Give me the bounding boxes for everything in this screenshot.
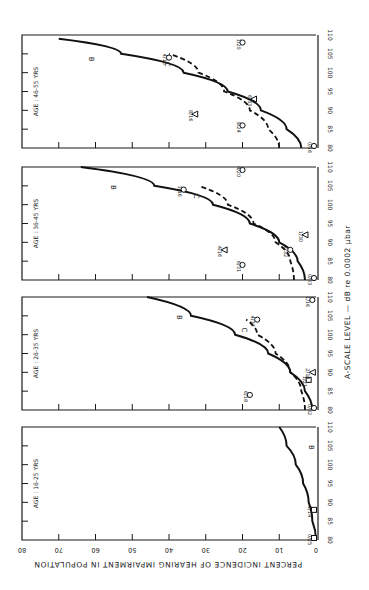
curve-label-B: B — [307, 445, 315, 450]
curve-C — [246, 320, 305, 410]
db-tick-label: 105 — [327, 440, 334, 452]
curve-label-B: B — [175, 315, 183, 320]
percent-tick-label: 10 — [275, 546, 283, 554]
db-tick-label: 100 — [327, 329, 334, 341]
chart-panel-4: 80859095100105110AGE : 16-25 YRSB0/251/1… — [22, 421, 334, 545]
curve-B — [147, 297, 312, 410]
db-tick-label: 110 — [327, 291, 334, 303]
point-label: 1/14 — [307, 506, 313, 517]
x-axis-title: A-SCALE LEVEL — dB re 0.0002 µbar — [343, 225, 352, 379]
curve-label-B: B — [87, 57, 95, 62]
chart-panel-1: 80859095100105110AGE : 46-55 YRSBC0/169/… — [22, 29, 334, 153]
curve-B — [81, 167, 305, 280]
db-tick-label: 95 — [327, 480, 334, 488]
percent-tick-label: 30 — [202, 546, 210, 554]
db-tick-label: 80 — [327, 276, 334, 284]
curve-B — [59, 39, 302, 148]
panel-frame — [22, 427, 316, 540]
point-label: 4/16 — [162, 54, 168, 65]
db-tick-label: 100 — [327, 67, 334, 79]
chart-panel-3: 80859095100105110AGE : 26-35 YRSBC0/326/… — [22, 291, 334, 415]
db-tick-label: 85 — [327, 387, 334, 395]
y-axis-title: PERCENT INCIDENCE OF HEARING IMPAIRMENT … — [34, 560, 302, 569]
db-tick-label: 105 — [327, 180, 334, 192]
percent-tick-label: 80 — [18, 546, 26, 554]
point-label: 1/30 — [298, 231, 304, 242]
db-tick-label: 90 — [327, 239, 334, 247]
db-tick-label: 85 — [327, 517, 334, 525]
curve-C — [169, 54, 279, 148]
db-tick-label: 110 — [327, 421, 334, 433]
point-label: 0/25 — [307, 534, 313, 545]
point-label: 4/16 — [217, 246, 223, 257]
db-tick-label: 85 — [327, 257, 334, 265]
panel-frame — [22, 167, 316, 280]
point-label: 6/31 — [236, 261, 242, 272]
db-tick-label: 85 — [327, 125, 334, 133]
db-tick-label: 90 — [327, 499, 334, 507]
db-tick-label: 90 — [327, 107, 334, 115]
percent-tick-label: 20 — [238, 546, 246, 554]
db-tick-label: 110 — [327, 29, 334, 41]
age-label: AGE : 46-55 YRS — [32, 67, 39, 116]
panel-frame — [22, 297, 316, 410]
point-label: 1/16 — [305, 296, 311, 307]
point-label: 3/16 — [177, 186, 183, 197]
point-label: 2/18 — [305, 368, 311, 379]
age-label: AGE : 36-45 YRS — [32, 199, 39, 248]
point-label: 2/32 — [283, 246, 289, 257]
point-label: 4/20 — [236, 166, 242, 177]
panel-frame — [22, 35, 316, 148]
point-label: 4/32 — [250, 316, 256, 327]
curve-label-C: C — [192, 194, 200, 199]
point-label: 9/24 — [236, 121, 242, 132]
chart-panel-2: 80859095100105110AGE : 36-45 YRSBC0/336/… — [22, 161, 334, 285]
db-tick-label: 90 — [327, 369, 334, 377]
db-tick-label: 80 — [327, 144, 334, 152]
curve-label-B: B — [109, 185, 117, 190]
db-tick-label: 100 — [327, 459, 334, 471]
point-label: 1/20 — [236, 39, 242, 50]
age-label: AGE : 16-25 YRS — [32, 459, 39, 508]
percent-tick-label: 0 — [314, 546, 318, 554]
db-tick-label: 80 — [327, 536, 334, 544]
percent-tick-label: 50 — [128, 546, 136, 554]
hearing-impairment-figure: 80859095100105110AGE : 46-55 YRSBC0/169/… — [0, 0, 369, 590]
curve-B — [279, 427, 316, 540]
db-tick-label: 105 — [327, 48, 334, 60]
db-tick-label: 95 — [327, 220, 334, 228]
percent-tick-label: 40 — [165, 546, 173, 554]
db-tick-label: 95 — [327, 350, 334, 358]
point-label: 0/16 — [307, 142, 313, 153]
point-label: 8/16 — [188, 110, 194, 121]
percent-tick-label: 60 — [91, 546, 99, 554]
curve-label-C: C — [240, 328, 248, 333]
age-label: AGE : 26-35 YRS — [32, 329, 39, 378]
point-label: 6/18 — [243, 391, 249, 402]
db-tick-label: 105 — [327, 310, 334, 322]
point-label: 0/32 — [307, 404, 313, 415]
percent-tick-label: 70 — [55, 546, 63, 554]
db-tick-label: 110 — [327, 161, 334, 173]
point-label: 0/33 — [307, 274, 313, 285]
point-label: 6/33 — [247, 95, 253, 106]
db-tick-label: 80 — [327, 406, 334, 414]
db-tick-label: 95 — [327, 88, 334, 96]
curve-C — [198, 186, 294, 280]
db-tick-label: 100 — [327, 199, 334, 211]
